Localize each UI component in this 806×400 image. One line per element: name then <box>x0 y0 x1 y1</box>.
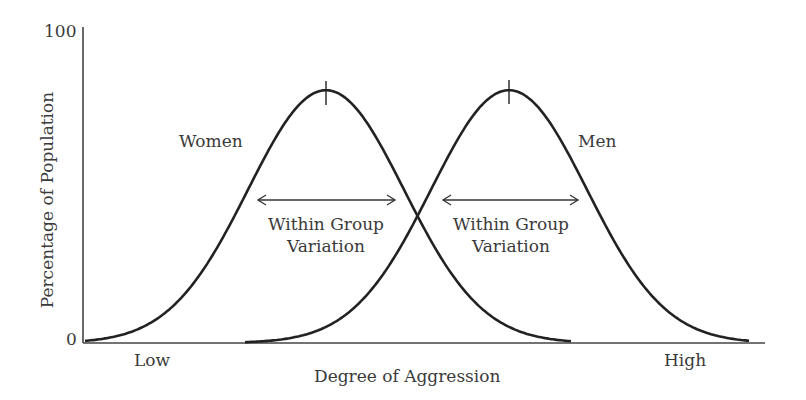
variation-line1: Within Group <box>441 213 581 235</box>
chart-plot-area <box>0 0 806 400</box>
men-variation-label: Within Group Variation <box>441 213 581 257</box>
y-tick-min: 0 <box>66 331 77 348</box>
men-label: Men <box>578 133 616 150</box>
variation-line1: Within Group <box>256 213 396 235</box>
women-variation-label: Within Group Variation <box>256 213 396 257</box>
x-tick-high: High <box>664 352 706 369</box>
y-axis-label: Percentage of Population <box>37 92 57 308</box>
women-label: Women <box>179 133 243 150</box>
y-tick-max: 100 <box>44 23 76 40</box>
variation-line2: Variation <box>441 235 581 257</box>
men-variation-arrow <box>443 195 578 205</box>
women-variation-arrow <box>258 195 395 205</box>
x-axis-label: Degree of Aggression <box>314 368 500 385</box>
x-tick-low: Low <box>134 352 170 369</box>
variation-line2: Variation <box>256 235 396 257</box>
